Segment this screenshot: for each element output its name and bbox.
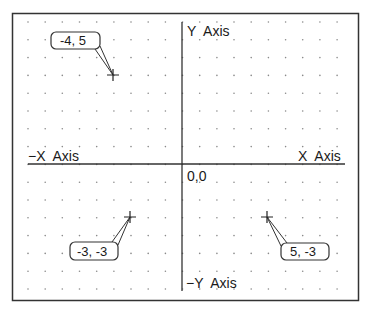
grid-dot (27, 75, 29, 77)
grid-dot (165, 21, 167, 23)
origin-label: 0,0 (187, 168, 207, 184)
grid-dot (336, 270, 338, 272)
grid-dot (216, 57, 218, 59)
grid-dot (250, 217, 252, 219)
grid-dot (233, 199, 235, 201)
grid-dot (62, 270, 64, 272)
grid-dot (336, 92, 338, 94)
grid-dot (302, 288, 304, 290)
grid-dot (302, 57, 304, 59)
grid-dot (233, 128, 235, 130)
grid-dot (113, 39, 115, 41)
grid-dot (27, 181, 29, 183)
grid-dot (233, 181, 235, 183)
grid-dot (96, 199, 98, 201)
grid-dot (130, 128, 132, 130)
grid-dot (216, 270, 218, 272)
grid-dot (336, 253, 338, 255)
grid-dot (268, 199, 270, 201)
grid-dot (62, 288, 64, 290)
grid-dot (62, 110, 64, 112)
grid-dot (285, 199, 287, 201)
grid-dot (250, 128, 252, 130)
grid-dot (285, 146, 287, 148)
grid-dot (44, 181, 46, 183)
grid-dot (302, 110, 304, 112)
grid-dot (268, 235, 270, 237)
grid-dot (44, 253, 46, 255)
grid-dot (44, 217, 46, 219)
grid-dot (250, 57, 252, 59)
grid-dot (268, 75, 270, 77)
grid-dot (44, 235, 46, 237)
grid-dot (216, 199, 218, 201)
grid-dot (199, 39, 201, 41)
grid-dot (250, 181, 252, 183)
grid-dot (233, 217, 235, 219)
grid-dot (79, 128, 81, 130)
grid-dot (96, 217, 98, 219)
grid-dot (302, 75, 304, 77)
grid-dot (27, 217, 29, 219)
grid-dot (44, 57, 46, 59)
grid-dot (250, 253, 252, 255)
grid-dot (233, 21, 235, 23)
grid-dot (130, 110, 132, 112)
grid-dot (130, 21, 132, 23)
grid-dot (319, 288, 321, 290)
grid-dot (336, 110, 338, 112)
grid-dot (130, 235, 132, 237)
grid-dot (79, 110, 81, 112)
grid-dot (44, 128, 46, 130)
grid-dot (250, 235, 252, 237)
grid-dot (268, 92, 270, 94)
grid-dot (27, 128, 29, 130)
grid-dot (216, 75, 218, 77)
positive-y-axis-label: Y Axis (187, 23, 230, 39)
grid-dot (336, 75, 338, 77)
grid-dot (268, 110, 270, 112)
grid-dot (113, 235, 115, 237)
grid-dot (302, 21, 304, 23)
grid-dot (165, 146, 167, 148)
grid-dot (147, 75, 149, 77)
grid-dot (199, 235, 201, 237)
grid-dot (285, 57, 287, 59)
grid-dot (96, 146, 98, 148)
grid-dot (285, 110, 287, 112)
grid-dot (147, 21, 149, 23)
grid-dot (268, 57, 270, 59)
grid-dot (336, 57, 338, 59)
grid-dot (44, 199, 46, 201)
grid-dot (113, 270, 115, 272)
grid-dot (130, 57, 132, 59)
grid-dot (147, 181, 149, 183)
grid-dot (27, 235, 29, 237)
grid-dot (268, 270, 270, 272)
grid-dot (319, 270, 321, 272)
grid-dot (96, 270, 98, 272)
grid-dot (62, 21, 64, 23)
grid-dot (319, 92, 321, 94)
grid-dot (27, 57, 29, 59)
grid-dot (302, 217, 304, 219)
grid-dot (216, 128, 218, 130)
grid-dot (147, 288, 149, 290)
grid-dot (79, 270, 81, 272)
grid-dot (27, 288, 29, 290)
grid-dot (319, 181, 321, 183)
grid-dot (336, 128, 338, 130)
grid-dot (44, 39, 46, 41)
coordinate-plane-diagram: Y Axis −Y Axis X Axis −X Axis 0,0 -4, 5 … (0, 0, 367, 312)
grid-dot (96, 128, 98, 130)
grid-dot (250, 199, 252, 201)
grid-dot (302, 181, 304, 183)
grid-dot (147, 235, 149, 237)
grid-dot (62, 235, 64, 237)
grid-dot (268, 128, 270, 130)
grid-dot (62, 217, 64, 219)
grid-dot (199, 110, 201, 112)
grid-dot (147, 270, 149, 272)
grid-dot (199, 57, 201, 59)
grid-dot (319, 199, 321, 201)
